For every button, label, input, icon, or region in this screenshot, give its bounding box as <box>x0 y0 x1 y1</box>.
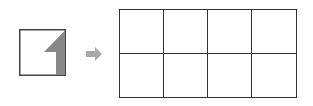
right-arrow-icon <box>86 47 102 61</box>
grid-cell <box>208 54 252 98</box>
grid-cell <box>164 10 208 54</box>
target-grid <box>119 9 297 98</box>
source-tile <box>19 29 66 76</box>
tile-pattern-icon <box>19 29 66 76</box>
grid-cell <box>120 10 164 54</box>
grid-cell <box>120 54 164 98</box>
grid-cell <box>164 54 208 98</box>
grid-cell <box>252 10 296 54</box>
grid-cell <box>252 54 296 98</box>
grid-cell <box>208 10 252 54</box>
